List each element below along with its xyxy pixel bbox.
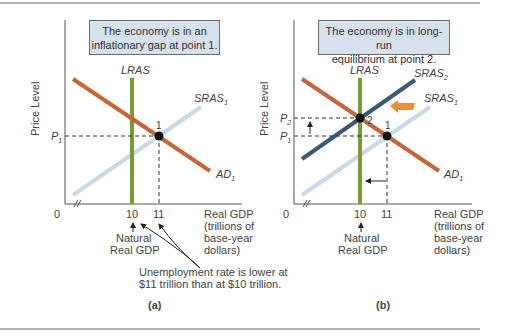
a-tick-10: 10 <box>126 208 138 220</box>
b-xlabel-1: Real GDP <box>434 208 484 220</box>
b-caption: (b) <box>376 299 390 311</box>
b-p1-tick-label: P1 <box>280 130 291 144</box>
b-p2-tick-label: P2 <box>280 112 291 126</box>
b-point-1 <box>383 132 392 141</box>
panel-a: 1 LRAS SRAS1 AD1 P1 Price Level 0 10 11 … <box>29 20 288 311</box>
a-origin-label: 0 <box>54 208 60 220</box>
b-tick-10: 10 <box>354 208 366 220</box>
b-tick-11: 11 <box>381 208 392 220</box>
b-xlabel-4: dollars) <box>434 244 470 256</box>
b-xlabel-2: (trillions of <box>434 220 485 232</box>
b-lras-label: LRAS <box>350 64 379 76</box>
a-natural-label-1: Natural <box>116 232 151 244</box>
a-ad1-curve <box>73 79 210 171</box>
figure-svg: 1 LRAS SRAS1 AD1 P1 Price Level 0 10 11 … <box>0 0 506 332</box>
b-origin-label: 0 <box>283 208 289 220</box>
b-natural-label-2: Real GDP <box>338 244 388 256</box>
a-sras1-label: SRAS1 <box>194 92 228 106</box>
b-ylabel: Price Level <box>258 82 270 136</box>
b-sras2-label: SRAS2 <box>414 67 448 81</box>
b-point-1-label: 1 <box>385 120 391 131</box>
a-point-1 <box>155 132 164 141</box>
a-p1-tick-label: P1 <box>51 130 62 144</box>
b-natural-label-1: Natural <box>344 232 379 244</box>
b-xlabel-3: base-year <box>434 232 483 244</box>
a-point-1-label: 1 <box>156 120 162 131</box>
a-tick-11: 11 <box>153 208 164 220</box>
a-unemp-arrow-11-icon <box>159 224 200 268</box>
a-caption: (a) <box>148 299 162 311</box>
a-unemp-arrow-join <box>172 245 200 268</box>
a-unemp-line1: Unemployment rate is lower at <box>139 266 288 278</box>
a-xlabel-2: (trillions of <box>204 220 255 232</box>
b-point-2-label: 2 <box>367 115 373 126</box>
a-lras-label: LRAS <box>121 64 150 76</box>
b-sras1-label: SRAS1 <box>424 92 458 106</box>
a-ylabel: Price Level <box>29 82 41 136</box>
a-xlabel-1: Real GDP <box>204 208 254 220</box>
a-ad1-label: AD1 <box>215 168 235 182</box>
a-xlabel-3: base-year <box>204 232 253 244</box>
a-xlabel-4: dollars) <box>204 244 240 256</box>
b-ad1-label: AD1 <box>443 168 463 182</box>
b-sras-shift-arrow-icon <box>390 100 415 113</box>
b-point-2 <box>356 114 365 123</box>
a-natural-label-2: Real GDP <box>110 244 160 256</box>
panel-b: 2 1 LRAS SRAS2 SRAS1 AD1 P2 P1 Price Lev… <box>258 20 485 311</box>
a-unemp-line2: $11 trillion than at $10 trillion. <box>139 278 281 290</box>
